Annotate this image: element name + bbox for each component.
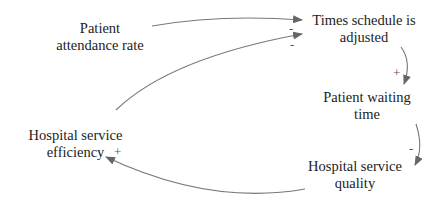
node-label-line1: Times schedule is (304, 12, 424, 29)
polarity-sign-efficiency-schedule: - (290, 38, 294, 51)
polarity-sign-schedule-waiting: + (393, 66, 400, 79)
node-label-line1: Patient waiting (312, 89, 422, 106)
link-attendance-to-schedule (152, 18, 302, 26)
node-label-line2: attendance rate (50, 37, 150, 54)
link-waiting-to-quality (415, 124, 420, 165)
node-times-schedule-adjusted: Times schedule is adjusted (304, 12, 424, 46)
link-quality-to-efficiency (106, 157, 305, 193)
node-patient-waiting-time: Patient waiting time (312, 89, 422, 123)
polarity-sign-attendance-schedule: - (289, 22, 293, 35)
node-label-line1: Patient (50, 20, 150, 37)
node-label-line1: Hospital service (18, 127, 133, 144)
node-patient-attendance-rate: Patient attendance rate (50, 20, 150, 54)
link-schedule-to-waiting (401, 47, 407, 84)
causal-loop-diagram: Patient attendance rate Times schedule i… (0, 0, 441, 213)
node-hospital-service-quality: Hospital service quality (298, 158, 412, 192)
polarity-sign-quality-efficiency: + (114, 145, 121, 158)
node-label-line2: quality (298, 175, 412, 192)
node-label-line2: time (312, 106, 422, 123)
polarity-sign-waiting-quality: - (409, 142, 413, 155)
node-label-line1: Hospital service (298, 158, 412, 175)
node-label-line2: adjusted (304, 29, 424, 46)
